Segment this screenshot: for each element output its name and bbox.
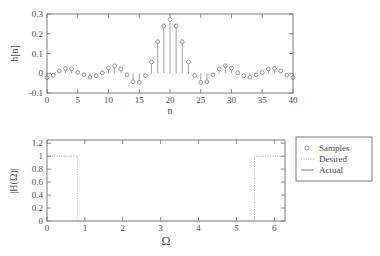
stem-marker [113, 64, 117, 68]
stem-marker [217, 67, 221, 71]
legend-label-actual: Actual [319, 165, 343, 175]
legend: Samples Desired Actual [296, 137, 372, 181]
stem-marker [285, 73, 289, 77]
stem-marker [119, 67, 123, 71]
stem-marker [100, 71, 104, 75]
top-ytick-3: 0 [39, 68, 44, 78]
stem-marker [162, 24, 166, 28]
stem-marker [144, 74, 148, 78]
stem-marker [242, 74, 246, 78]
stem-marker [236, 71, 240, 75]
top-ytick-0: 0.3 [32, 9, 44, 19]
stem-marker [137, 80, 141, 84]
top-xtick-1: 5 [76, 95, 81, 105]
panel-impulse-response: 0.3 0.2 0.1 0 -0.1 0 5 10 15 [9, 9, 298, 116]
stem-marker [187, 60, 191, 64]
stem-marker [248, 75, 252, 79]
top-xtick-6: 30 [227, 95, 237, 105]
figure-svg: 0.3 0.2 0.1 0 -0.1 0 5 10 15 [0, 0, 380, 256]
bottom-xtick-1: 1 [83, 223, 88, 233]
top-xtick-7: 35 [258, 95, 268, 105]
stem-marker [174, 24, 178, 28]
top-xtick-4: 20 [166, 95, 176, 105]
stem-marker [223, 64, 227, 68]
stem-marker [211, 73, 215, 77]
top-xtick-0: 0 [45, 95, 50, 105]
top-xtick-8: 40 [289, 95, 299, 105]
stem-marker [156, 40, 160, 44]
stem-marker [205, 80, 209, 84]
bottom-ytick-2: 0.8 [32, 164, 44, 174]
bottom-xtick-6: 6 [272, 223, 277, 233]
bottom-ytick-4: 0.4 [32, 190, 44, 200]
top-ytick-2: 0.1 [32, 49, 43, 59]
stem-marker [76, 71, 80, 75]
bottom-xtick-4: 4 [196, 223, 201, 233]
bottom-xtick-3: 3 [158, 223, 163, 233]
stem-marker [82, 73, 86, 77]
stem-marker [260, 71, 264, 75]
stem-marker [279, 69, 283, 73]
stem-marker [70, 67, 74, 71]
bottom-xtick-2: 2 [121, 223, 126, 233]
stem-marker [125, 73, 129, 77]
legend-label-samples: Samples [319, 143, 350, 153]
top-xtick-5: 25 [196, 95, 206, 105]
stem-marker [193, 74, 197, 78]
top-xaxis-label: n [168, 105, 173, 116]
stem-marker [267, 67, 271, 71]
top-xtick-3: 15 [135, 95, 145, 105]
stem-marker [51, 73, 55, 77]
top-ytick-4: -0.1 [29, 88, 43, 98]
stem-marker [199, 80, 203, 84]
bottom-ytick-6: 0 [39, 216, 44, 226]
stem-marker [230, 66, 234, 70]
stem-marker [107, 66, 111, 70]
stem-marker [273, 67, 277, 71]
bottom-y-ticks [47, 143, 285, 221]
legend-label-desired: Desired [319, 154, 347, 164]
stem-marker [64, 67, 68, 71]
panel-magnitude-response: 1.2 1 0.8 0.6 0.4 0.2 0 0 1 2 3 4 5 [8, 138, 285, 248]
bottom-ytick-0: 1.2 [32, 138, 43, 148]
bottom-ytick-1: 1 [39, 151, 44, 161]
stem-marker [57, 69, 61, 73]
stem-marker [88, 75, 92, 79]
stem-marker [168, 18, 172, 22]
magnitude-series [47, 156, 285, 221]
bottom-x-ticks [47, 140, 274, 221]
desired-response-curve [47, 156, 285, 221]
bottom-ytick-3: 0.6 [32, 177, 44, 187]
stem-marker [150, 60, 154, 64]
bottom-xaxis-label: Ω [162, 234, 171, 248]
top-ytick-1: 0.2 [32, 29, 43, 39]
stem-marker [94, 74, 98, 78]
stem-series [45, 18, 295, 85]
bottom-ytick-5: 0.2 [32, 203, 43, 213]
bottom-plot-frame [47, 140, 285, 221]
stem-marker [131, 80, 135, 84]
bottom-xtick-5: 5 [234, 223, 239, 233]
figure-container: 0.3 0.2 0.1 0 -0.1 0 5 10 15 [0, 0, 380, 256]
stem-marker [180, 40, 184, 44]
top-xtick-2: 10 [104, 95, 114, 105]
top-yaxis-label: h[n] [9, 45, 20, 62]
bottom-yaxis-label: |H(Ω)| [8, 168, 20, 193]
bottom-xtick-0: 0 [45, 223, 50, 233]
stem-marker [254, 73, 258, 77]
